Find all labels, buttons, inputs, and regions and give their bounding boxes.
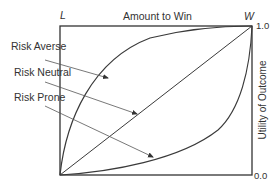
risk-neutral-line bbox=[60, 26, 252, 175]
y-tick-top: 1.0 bbox=[256, 20, 269, 31]
y-tick-bottom: 0.0 bbox=[254, 170, 267, 181]
risk-neutral-label: Risk Neutral bbox=[14, 66, 71, 78]
right-end-label: W bbox=[244, 10, 254, 22]
chart-title: Amount to Win bbox=[123, 10, 192, 22]
risk-averse-label: Risk Averse bbox=[11, 40, 66, 52]
y-axis-label: Utility of Outcome bbox=[257, 61, 268, 140]
risk-prone-label: Risk Prone bbox=[14, 91, 65, 103]
left-end-label: L bbox=[60, 9, 66, 21]
